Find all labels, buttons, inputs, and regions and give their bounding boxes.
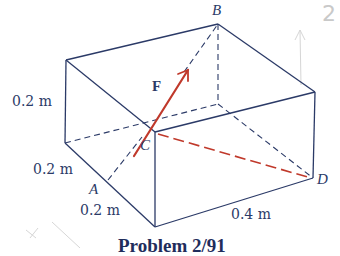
figure-caption: Problem 2/91 bbox=[118, 236, 226, 255]
edge-top-left bbox=[66, 60, 155, 132]
point-label-B: B bbox=[212, 3, 221, 18]
point-label-A: A bbox=[89, 182, 98, 197]
edge-top-back bbox=[66, 24, 218, 60]
dimension-length: 0.4 m bbox=[231, 207, 271, 221]
line-C-to-D bbox=[158, 134, 311, 178]
force-label-F: F bbox=[152, 79, 161, 94]
box-edges-solid bbox=[65, 24, 315, 227]
line-A-to-C bbox=[108, 137, 142, 180]
handwritten-note: 2 bbox=[322, 3, 336, 25]
edge-left-vertical bbox=[65, 60, 66, 143]
dimension-depth-lower: 0.2 m bbox=[80, 203, 120, 217]
edge-hidden-right bbox=[218, 104, 313, 178]
point-label-D: D bbox=[317, 172, 328, 187]
dimension-height-left: 0.2 m bbox=[12, 94, 52, 108]
point-label-C: C bbox=[140, 138, 150, 153]
edge-right-vertical bbox=[313, 92, 315, 178]
edge-top-front bbox=[155, 92, 315, 132]
dimension-depth-upper: 0.2 m bbox=[33, 162, 73, 176]
